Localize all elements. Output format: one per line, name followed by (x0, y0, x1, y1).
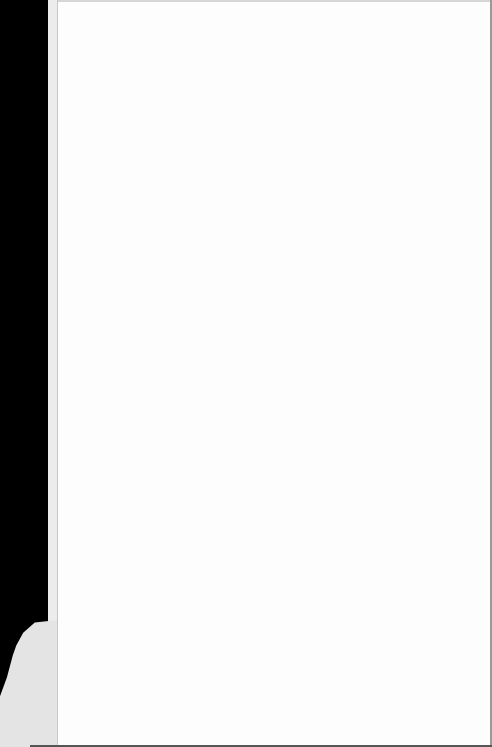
blank-page-body (58, 0, 490, 745)
scanned-page (0, 0, 492, 747)
page-top-edge (58, 0, 492, 2)
